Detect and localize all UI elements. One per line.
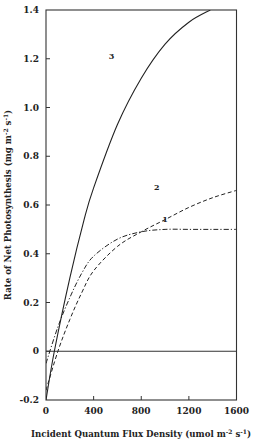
curve-label-3: 3 xyxy=(109,51,115,61)
curve-label-1: 1 xyxy=(162,214,168,224)
plot-border xyxy=(46,10,237,400)
curve-3 xyxy=(46,10,210,400)
x-tick-label: 1600 xyxy=(224,406,249,416)
y-tick-label: 1.2 xyxy=(23,54,39,64)
y-tick-label: 0.6 xyxy=(23,200,39,210)
x-tick-label: 400 xyxy=(84,406,103,416)
y-tick-label: 1.4 xyxy=(23,5,39,15)
y-axis-title: Rate of Net Photosynthesis (mg m-2 s-1) xyxy=(2,110,14,300)
y-tick-label: 0.2 xyxy=(23,298,39,308)
photosynthesis-chart: 040080012001600-0.200.20.40.60.81.01.21.… xyxy=(0,0,263,443)
y-tick-label: 0.8 xyxy=(23,151,39,161)
curve-label-2: 2 xyxy=(154,182,160,192)
curves xyxy=(46,10,237,400)
x-axis-title: Incident Quantum Flux Density (umol m-2 … xyxy=(31,428,251,440)
y-tick-label: 0 xyxy=(33,346,39,356)
curve-2 xyxy=(46,190,237,390)
x-tick-label: 0 xyxy=(43,406,49,416)
x-tick-label: 800 xyxy=(132,406,151,416)
curve-1 xyxy=(46,229,237,363)
y-tick-label: -0.2 xyxy=(20,395,39,405)
plot-frame xyxy=(46,10,237,400)
curve-labels: 123 xyxy=(109,51,168,224)
y-tick-label: 1.0 xyxy=(23,103,39,113)
y-tick-label: 0.4 xyxy=(23,249,39,259)
x-tick-label: 1200 xyxy=(176,406,201,416)
